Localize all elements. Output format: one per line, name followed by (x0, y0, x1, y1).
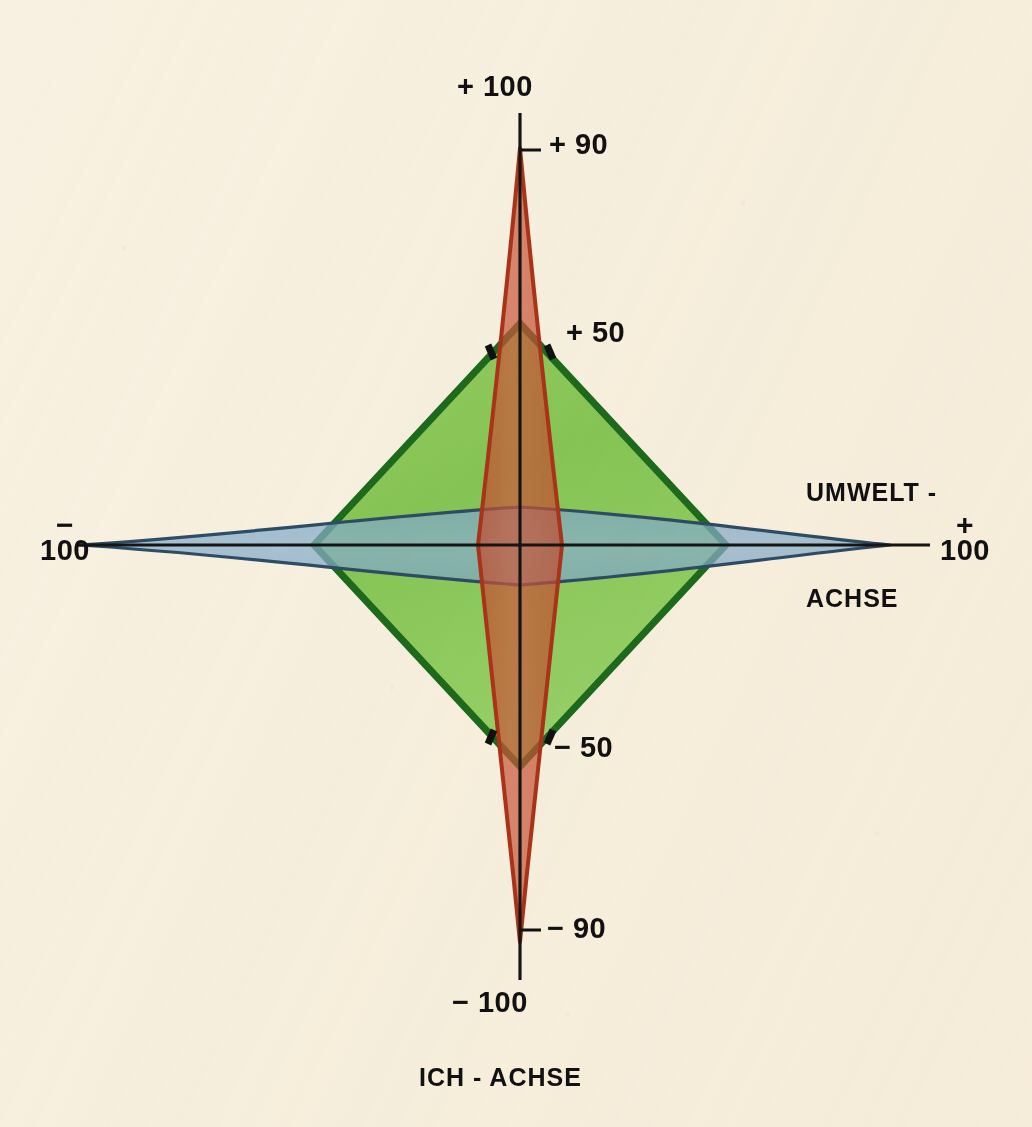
tick-label-minus-100: − 100 (452, 986, 528, 1019)
figure-canvas: + 100 + 90 + 50 − 50 − 90 − 100 − 100 + … (0, 0, 1032, 1127)
tick-label-minus-50: − 50 (554, 731, 613, 764)
minus-100-value-left: 100 (40, 538, 90, 563)
tick-label-minus-90: − 90 (547, 912, 606, 945)
tick-label-plus-90: + 90 (549, 128, 608, 161)
axis-lines (78, 113, 930, 980)
plus-100-value-right: 100 (940, 538, 990, 563)
tick-label-plus-50: + 50 (566, 316, 625, 349)
polar-value-diagram (0, 0, 1032, 1127)
tick-label-umwelt-minus-100: − 100 (40, 512, 90, 563)
tick-label-plus-100: + 100 (457, 70, 533, 103)
y-axis-title: ICH - ACHSE (419, 1063, 582, 1092)
x-axis-title-line2: ACHSE (806, 584, 899, 613)
x-axis-title-line1: UMWELT - (806, 478, 937, 507)
tick-label-umwelt-plus-100: + 100 (940, 512, 990, 563)
